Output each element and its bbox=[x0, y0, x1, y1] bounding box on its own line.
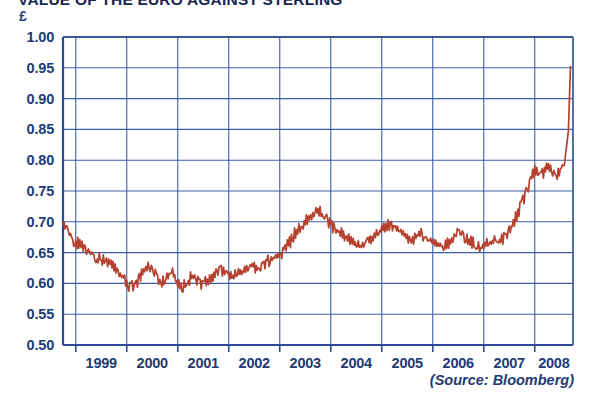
x-axis-tick-label: 2005 bbox=[381, 355, 433, 371]
chart-root: VALUE OF THE EURO AGAINST STERLING £ 0.5… bbox=[0, 0, 594, 415]
x-axis-tick-label: 2004 bbox=[330, 355, 382, 371]
y-axis-tick-label: 0.95 bbox=[8, 60, 54, 76]
source-note: (Source: Bloomberg) bbox=[430, 372, 574, 388]
x-axis-tick-label: 2000 bbox=[126, 355, 178, 371]
x-axis-tick-label: 2001 bbox=[177, 355, 229, 371]
y-axis-tick-label: 0.90 bbox=[8, 91, 54, 107]
y-axis-tick-label: 0.70 bbox=[8, 214, 54, 230]
y-axis-tick-label: 0.55 bbox=[8, 306, 54, 322]
line-chart bbox=[0, 0, 594, 415]
y-axis-tick-label: 0.75 bbox=[8, 183, 54, 199]
x-axis-tick-label: 1999 bbox=[75, 355, 127, 371]
y-axis-tick-label: 1.00 bbox=[8, 29, 54, 45]
y-axis-tick-label: 0.85 bbox=[8, 121, 54, 137]
y-axis-tick-label: 0.50 bbox=[8, 337, 54, 353]
y-axis-tick-label: 0.60 bbox=[8, 275, 54, 291]
x-axis-tick-label: 2002 bbox=[228, 355, 280, 371]
x-axis-tick-label: 2006 bbox=[432, 355, 484, 371]
x-axis-tick-label: 2008 bbox=[528, 355, 580, 371]
x-axis-tick-label: 2003 bbox=[279, 355, 331, 371]
y-axis-tick-label: 0.80 bbox=[8, 152, 54, 168]
y-axis-tick-label: 0.65 bbox=[8, 245, 54, 261]
